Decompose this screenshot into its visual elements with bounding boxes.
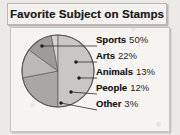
leader-dot-sports [40, 44, 43, 47]
leader-dot-animals [77, 76, 80, 79]
leader-dot-arts [74, 60, 77, 63]
legend-value-sports: 50% [129, 34, 148, 45]
legend-item-people: People 12% [96, 79, 178, 95]
legend-label-other: Other [96, 98, 121, 109]
leader-dot-other [59, 101, 62, 104]
legend-value-animals: 13% [136, 66, 155, 77]
legend-item-sports: Sports 50% [96, 31, 178, 47]
leader-dot-people [69, 90, 72, 93]
legend-value-people: 12% [130, 82, 149, 93]
legend-item-other: Other 3% [96, 95, 178, 111]
page-title: Favorite Subject on Stamps [10, 8, 164, 20]
chart-legend: Sports 50% Arts 22% Animals 13% People 1… [96, 31, 178, 111]
legend-label-people: People [96, 82, 127, 93]
legend-label-animals: Animals [96, 66, 133, 77]
legend-label-sports: Sports [96, 34, 126, 45]
legend-item-animals: Animals 13% [96, 63, 178, 79]
legend-label-arts: Arts [96, 50, 115, 61]
pie-chart-figure: Favorite Subject on Stamps [0, 0, 180, 135]
legend-value-other: 3% [124, 98, 138, 109]
chart-title-box: Favorite Subject on Stamps [7, 3, 167, 25]
legend-item-arts: Arts 22% [96, 47, 178, 63]
legend-value-arts: 22% [118, 50, 137, 61]
